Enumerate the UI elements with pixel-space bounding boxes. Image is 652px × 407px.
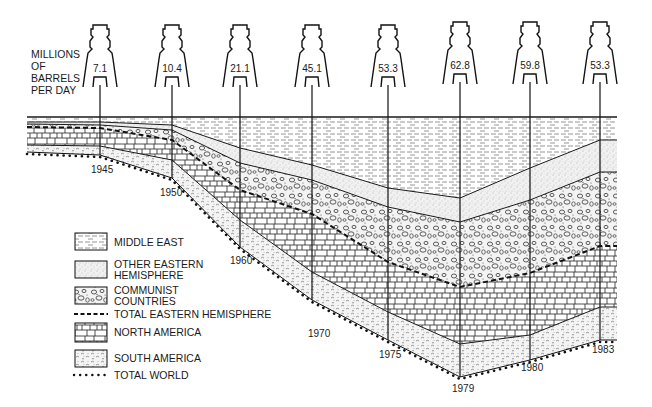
legend-swatch-south-america (75, 350, 107, 367)
tower-value-1950: 10.4 (162, 63, 182, 74)
legend-label-middle-east: MIDDLE EAST (114, 236, 185, 248)
legend-label-total-eastern-hemisphere: TOTAL EASTERN HEMISPHERE (114, 308, 271, 320)
tower-value-1979: 62.8 (450, 60, 470, 71)
unit-label-line-4: PER DAY (31, 84, 76, 96)
year-label-1970: 1970 (308, 328, 331, 339)
tower-value-1980: 59.8 (520, 60, 540, 71)
oil-production-chart: 7.110.421.145.153.362.859.853.3 MILLIONS… (0, 0, 652, 407)
legend-label-communist-2: COUNTRIES (114, 295, 176, 307)
legend-label-other-eastern-2: HEMISPHERE (114, 269, 183, 281)
tower-value-1970: 45.1 (302, 63, 322, 74)
legend-swatch-communist-countries (75, 287, 107, 304)
year-label-1979: 1979 (452, 383, 475, 394)
tower-value-1960: 21.1 (230, 63, 250, 74)
year-label-1980: 1980 (521, 362, 544, 373)
legend-swatch-north-america (75, 323, 107, 342)
tower-value-1983: 53.3 (590, 60, 610, 71)
tower-value-1945: 7.1 (93, 63, 107, 74)
unit-label-line-2: OF (31, 60, 46, 72)
tower-value-1975: 53.3 (378, 63, 398, 74)
unit-label-line-1: MILLIONS (31, 48, 80, 60)
legend-label-north-america: NORTH AMERICA (114, 326, 201, 338)
legend-label-south-america: SOUTH AMERICA (114, 352, 201, 364)
year-label-1945: 1945 (91, 164, 114, 175)
year-label-1975: 1975 (379, 349, 402, 360)
legend-swatch-middle-east (75, 233, 107, 250)
unit-label-line-3: BARRELS (31, 72, 80, 84)
legend-label-total-world: TOTAL WORLD (114, 369, 189, 381)
year-label-1960: 1960 (230, 255, 253, 266)
legend-swatch-other-eastern-hemisphere (75, 261, 107, 278)
year-label-1950: 1950 (160, 187, 183, 198)
year-label-1983: 1983 (592, 344, 615, 355)
